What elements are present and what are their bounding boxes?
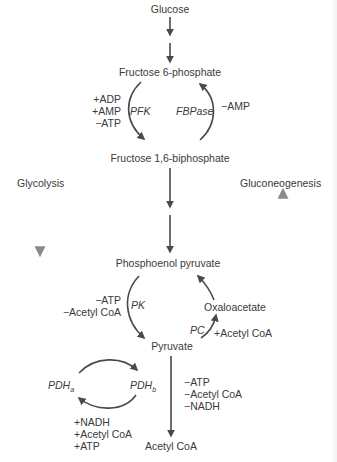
- arrow-pdh-a-to-b: [79, 360, 137, 373]
- regulators-pk: −ATP −Acetyl CoA: [40, 294, 121, 318]
- enzyme-fbpase: FBPase: [176, 106, 213, 117]
- arrow-oxaloacetate-to-pep: [198, 276, 214, 300]
- enzyme-pdh-a: PDHa: [48, 380, 74, 393]
- pathway-glycolysis-label: Glycolysis: [17, 178, 64, 189]
- enzyme-pc: PC: [190, 325, 205, 336]
- metabolite-acetyl-coa: Acetyl CoA: [145, 441, 197, 452]
- metabolite-fructose-6-phosphate: Fructose 6-phosphate: [119, 67, 221, 78]
- metabolite-phosphoenol-pyruvate: Phosphoenol pyruvate: [116, 258, 221, 269]
- enzyme-pfk: PFK: [130, 106, 150, 117]
- metabolite-glucose: Glucose: [151, 4, 190, 15]
- pathway-gluconeogenesis-label: Gluconeogenesis: [240, 178, 321, 189]
- metabolite-fructose-1-6-biphosphate: Fructose 1,6-biphosphate: [110, 153, 229, 164]
- regulators-fbpase: −AMP: [221, 101, 250, 112]
- arrow-pdh-b-to-a: [79, 395, 136, 408]
- page-edge-shadow: [331, 0, 337, 462]
- regulators-pc: +Acetyl CoA: [214, 328, 272, 339]
- enzyme-pk: PK: [131, 300, 145, 311]
- enzyme-pdh-b: PDHb: [130, 380, 156, 393]
- regulators-pdh-inactivation: +NADH +Acetyl CoA +ATP: [74, 416, 132, 452]
- metabolite-pyruvate: Pyruvate: [151, 341, 192, 352]
- regulators-pfk: +ADP +AMP −ATP: [88, 93, 121, 129]
- regulators-pdh-step: −ATP −Acetyl CoA −NADH: [184, 376, 242, 412]
- metabolite-oxaloacetate: Oxaloacetate: [204, 302, 266, 313]
